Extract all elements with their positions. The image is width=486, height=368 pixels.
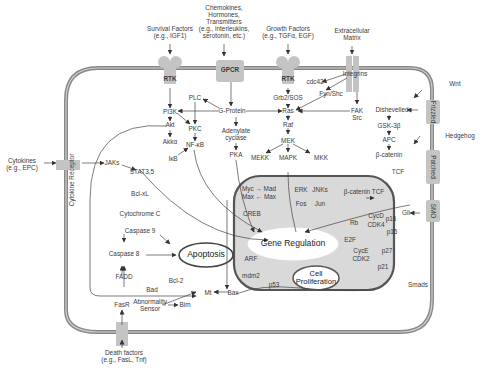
node-bim: Bim: [179, 301, 190, 308]
node-gli: Gli: [402, 209, 410, 216]
node-fyn-shc: Fyn/Shc: [319, 90, 342, 97]
node-p53: p53: [269, 281, 280, 288]
node-stat35: STAT3,5: [130, 168, 154, 175]
node-jnks: JNKs: [312, 186, 327, 193]
node-mapk: MAPK: [279, 154, 297, 161]
node-bax: Bax: [227, 289, 238, 296]
node-ikb: IκB: [168, 155, 177, 162]
node-p27: p27: [382, 247, 393, 254]
node-caspase-9: Caspase 9: [125, 227, 156, 234]
outcome-apoptosis: Apoptosis: [187, 250, 225, 259]
cytokines-label: Cytokines (e.g., EPC): [6, 157, 38, 171]
node-pkc: PKC: [188, 125, 201, 132]
node-caspase-8: Caspase 8: [109, 250, 140, 257]
rtk-receptor-2: RTK: [281, 75, 294, 82]
node-cytochrome-c: Cytochrome C: [120, 210, 161, 217]
node-plc: PLC: [189, 94, 201, 101]
node-jaks: JAKs: [105, 159, 120, 166]
node-arf: ARF: [245, 255, 258, 262]
node-creb: CREB: [243, 210, 261, 217]
node-apc: APC: [382, 136, 395, 143]
node-p15: p15: [387, 228, 398, 235]
node-p16: p16: [386, 215, 397, 222]
node-cdk2: CDK2: [352, 255, 369, 262]
node-p21: p21: [378, 263, 389, 270]
hedgehog-label: Hedgehog: [445, 132, 475, 139]
node-pi3k: PI3K: [163, 108, 177, 115]
node-mt: Mt: [204, 289, 211, 296]
outcome-gene-regulation: Gene Regulation: [261, 239, 326, 248]
node-gprotein: G-Protein: [218, 107, 245, 114]
node-abnormality-sensor: Abnormality Sensor: [133, 298, 167, 312]
node-nfkb: NF-κB: [186, 141, 204, 148]
frizzled-receptor: Frizzled: [429, 101, 436, 123]
outcome-cell-proliferation: Cell Proliferation: [296, 270, 337, 287]
chemokines-label: Chemokines, Hormones, Transmitters (e.g.…: [199, 4, 249, 39]
node-dishevelled: Dishevelled: [375, 106, 408, 113]
node-akka: Akkα: [163, 138, 177, 145]
node-ras: Ras: [282, 107, 293, 114]
node-pka: PKA: [230, 151, 243, 158]
node-mkk: MKK: [314, 154, 328, 161]
node-akt: Akt: [165, 121, 174, 128]
node-tcf: TCF: [392, 168, 404, 175]
gpcr-receptor: GPCR: [221, 66, 239, 73]
death-factors-label: Death factors (e.g., FasL, Tnf): [101, 349, 146, 363]
node-e2f: E2F: [344, 236, 356, 243]
node-beta-catenin-tcf: β-catenin TCF: [344, 188, 385, 195]
smo-receptor: SMO: [429, 204, 436, 219]
extracellular-matrix-label: Extracellular Matrix: [334, 27, 369, 41]
rtk-receptor-1: RTK: [163, 75, 176, 82]
node-cyce: CycE: [353, 247, 368, 254]
node-cdk4: CDK4: [367, 221, 384, 228]
pathway-diagram: Survival Factors (e.g., IGF1) Chemokines…: [0, 0, 486, 368]
integrins-receptor: Integrins: [343, 70, 368, 77]
node-beta-catenin: β-catenin: [376, 151, 402, 158]
node-adenylate-cyclase: Adenylate cyclase: [222, 127, 250, 141]
node-raf: Raf: [283, 121, 293, 128]
node-gsk3b: GSK-3β: [378, 122, 401, 129]
node-mdm2: mdm2: [242, 272, 260, 279]
wnt-label: Wnt: [449, 80, 460, 87]
node-bad: Bad: [146, 286, 157, 293]
node-cdc42: cdc42: [306, 78, 323, 85]
node-fos: Fos: [296, 200, 307, 207]
node-mek: MEK: [281, 137, 295, 144]
node-bcl-2: Bcl-2: [169, 277, 184, 284]
patched-receptor: Patched: [429, 155, 436, 178]
node-smads: Smads: [408, 281, 428, 288]
node-cycd: CycD: [368, 212, 384, 219]
node-erk: ERK: [294, 186, 307, 193]
node-myc-mad: Myc → Mad: [242, 185, 276, 192]
growth-factors-label: Growth Factors (e.g., TGFα, EGF): [262, 25, 314, 39]
node-fadd: FADD: [115, 273, 132, 280]
node-rb: Rb: [350, 219, 358, 226]
node-max-max: Max ← Max: [242, 193, 276, 200]
node-fak-src: FAK Src: [351, 107, 363, 121]
node-bcl-xl: Bcl-xL: [131, 190, 149, 197]
fasr-receptor: FasR: [114, 301, 129, 308]
cytokine-receptor: Cytokine Receptor: [68, 154, 75, 207]
node-grb2-sos: Grb2/SOS: [273, 94, 302, 101]
node-jun: Jun: [315, 200, 325, 207]
survival-factors-label: Survival Factors (e.g., IGF1): [147, 25, 193, 39]
node-mekk: MEKK: [251, 154, 269, 161]
